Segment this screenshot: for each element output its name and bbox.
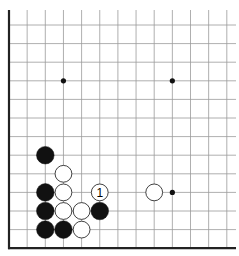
black-stone — [91, 202, 109, 220]
white-stone — [73, 221, 90, 238]
black-stone — [37, 184, 55, 202]
star-point-icon — [170, 190, 175, 195]
black-stone — [37, 221, 55, 239]
star-point-icon — [61, 78, 66, 83]
white-stone — [73, 203, 90, 220]
black-stone — [55, 221, 73, 239]
black-stone — [37, 202, 55, 220]
white-stone — [55, 184, 72, 201]
white-stone — [146, 184, 163, 201]
black-stone — [37, 146, 55, 164]
white-stone: 1 — [91, 184, 108, 201]
move-number-label: 1 — [96, 186, 103, 200]
white-stone — [55, 165, 72, 182]
star-point-icon — [170, 78, 175, 83]
go-board: 1 — [0, 0, 239, 256]
white-stone — [55, 203, 72, 220]
